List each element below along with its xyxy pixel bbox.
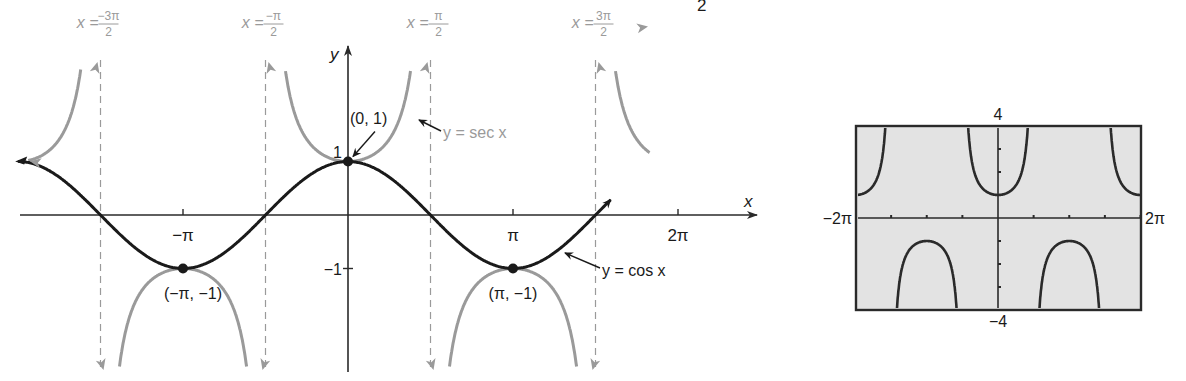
point-label: (π, −1)	[489, 285, 538, 302]
key-point	[178, 264, 188, 274]
sec-curve	[28, 70, 649, 367]
asymptote-label: x =π2	[406, 9, 449, 39]
svg-text:2: 2	[105, 25, 112, 39]
asymptote-label: x =−π2	[241, 9, 284, 39]
y-axis-label: y	[329, 45, 340, 64]
key-point	[508, 264, 518, 274]
sec-annotation-label: y = sec x	[443, 124, 507, 141]
svg-text:2: 2	[600, 25, 607, 39]
point-label-arrow	[353, 132, 375, 157]
calc-xmin-label: −2π	[823, 210, 852, 227]
calc-xmax-label: 2π	[1145, 210, 1165, 227]
svg-text:−3π: −3π	[98, 9, 120, 23]
asymptote-labels: x =−3π2x =−π2x =π2x =3π2	[76, 9, 614, 39]
asymptote-label: x =3π2	[571, 9, 614, 39]
calc-ymin-label: −4	[989, 313, 1007, 330]
svg-text:x =: x =	[571, 14, 594, 31]
svg-text:−π: −π	[266, 9, 281, 23]
asymptote-label: x =−3π2	[76, 9, 120, 39]
point-label: (0, 1)	[350, 110, 387, 127]
x-tick-label: 2π	[667, 226, 688, 245]
svg-text:x =: x =	[76, 14, 99, 31]
cos-annotation-label: y = cos x	[602, 262, 666, 279]
svg-text:π: π	[434, 9, 442, 23]
svg-text:3π: 3π	[596, 9, 611, 23]
figure: 2 x y −ππ2π1−1 (0, 1)(−π, −1)(π, −1) x =…	[0, 0, 1186, 381]
point-label: (−π, −1)	[164, 285, 222, 302]
y-tick-label: −1	[324, 261, 342, 278]
x-tick-label: −π	[172, 226, 194, 245]
calculator-screen: 4 −4 −2π 2π	[823, 106, 1165, 330]
calc-ymax-label: 4	[994, 106, 1003, 123]
axes: x y	[20, 45, 757, 372]
x-tick-label: π	[507, 226, 519, 245]
svg-text:x =: x =	[406, 14, 429, 31]
svg-text:x =: x =	[241, 14, 264, 31]
x-axis-label: x	[743, 192, 753, 211]
main-plot: x y −ππ2π1−1 (0, 1)(−π, −1)(π, −1) x =−3…	[15, 9, 757, 372]
y-tick-label: 1	[333, 144, 342, 161]
svg-text:2: 2	[435, 25, 442, 39]
header-fragment: 2	[697, 0, 706, 15]
key-point	[343, 157, 353, 167]
cos-annotation-arrow	[565, 253, 600, 268]
svg-text:2: 2	[270, 25, 277, 39]
